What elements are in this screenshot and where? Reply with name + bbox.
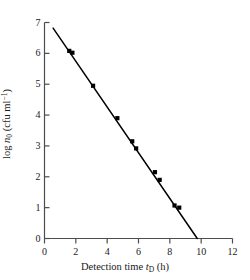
y-axis-title-unit-close: ) — [1, 89, 12, 93]
x-axis-tick-label: 8 — [167, 247, 172, 257]
y-axis-tick-label: 6 — [36, 48, 41, 58]
x-axis-tick-label: 12 — [228, 247, 238, 257]
y-axis-tick-label: 4 — [36, 110, 41, 120]
y-axis-tick-label: 2 — [36, 172, 41, 182]
y-axis-title: log n0 (cfu ml−1) — [0, 89, 14, 159]
y-axis-title-unit-exponent: −1 — [0, 93, 9, 101]
y-axis-tick-label: 0 — [36, 234, 41, 244]
y-axis-title-prefix: log — [1, 143, 12, 159]
x-axis-tick-label: 0 — [42, 247, 47, 257]
data-point-marker — [130, 139, 134, 143]
x-axis-tick-label: 10 — [196, 247, 206, 257]
y-axis-tick-label: 3 — [36, 141, 41, 151]
data-point-marker — [172, 203, 176, 207]
x-axis-tick-label: 6 — [136, 247, 141, 257]
data-point-marker — [115, 116, 119, 120]
data-point-marker — [91, 84, 95, 88]
y-axis-title-variable: n — [1, 138, 12, 143]
data-point-marker — [70, 51, 74, 55]
x-axis-tick-label: 2 — [73, 247, 78, 257]
y-axis-tick-label: 1 — [36, 203, 41, 213]
x-axis-title-prefix: Detection time — [81, 261, 146, 272]
x-axis-tick-label: 4 — [105, 247, 110, 257]
x-axis-title: Detection time tD (h) — [81, 261, 169, 274]
x-axis-title-unit: (h) — [154, 261, 169, 272]
data-point-marker — [134, 146, 138, 150]
y-axis-title-subscript: 0 — [5, 134, 14, 138]
y-axis-tick-label: 7 — [36, 18, 41, 28]
data-point-marker — [177, 206, 181, 210]
data-point-marker — [153, 170, 157, 174]
y-axis-tick-label: 5 — [36, 79, 41, 89]
data-point-marker — [158, 178, 162, 182]
y-axis-title-unit-open: (cfu ml — [1, 101, 12, 134]
chart-figure: 024681012 01234567 Detection time tD (h)… — [0, 0, 250, 280]
